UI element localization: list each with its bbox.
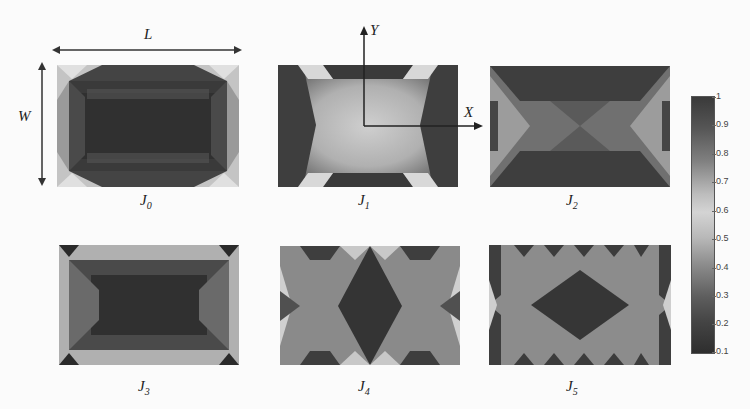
panel-label-j3: J3 (138, 378, 150, 397)
panel-label-j2: J2 (566, 192, 578, 211)
colorbar (691, 96, 715, 354)
colorbar-tick: 0.9 (716, 119, 729, 129)
colorbar-tick: 0.2 (716, 318, 729, 328)
length-label: L (144, 26, 152, 43)
colorbar-tick: 1 (716, 91, 721, 101)
panel-label-j1: J1 (358, 192, 370, 211)
width-dimension-arrow (36, 62, 48, 186)
panel-label-j5: J5 (566, 378, 578, 397)
colorbar-tick: 0.4 (716, 262, 729, 272)
current-mode-panel-j5 (489, 245, 671, 365)
colorbar-tick: 0.5 (716, 233, 729, 243)
colorbar-tick: 0.6 (716, 205, 729, 215)
colorbar-tick: 0.8 (716, 148, 729, 158)
width-label: W (18, 108, 31, 125)
current-mode-panel-j3 (59, 245, 239, 365)
colorbar-tick: 0.1 (716, 346, 729, 356)
current-mode-panel-j4 (280, 246, 460, 365)
y-axis-label: Y (370, 22, 378, 39)
panel-label-j0: J0 (140, 192, 152, 211)
length-dimension-arrow (52, 44, 242, 56)
x-axis-label: X (464, 104, 473, 121)
current-mode-panel-j0 (57, 65, 239, 187)
colorbar-tick: 0.3 (716, 290, 729, 300)
current-mode-panel-j2 (490, 66, 670, 187)
panel-label-j4: J4 (358, 378, 370, 397)
colorbar-tick: 0.7 (716, 176, 729, 186)
